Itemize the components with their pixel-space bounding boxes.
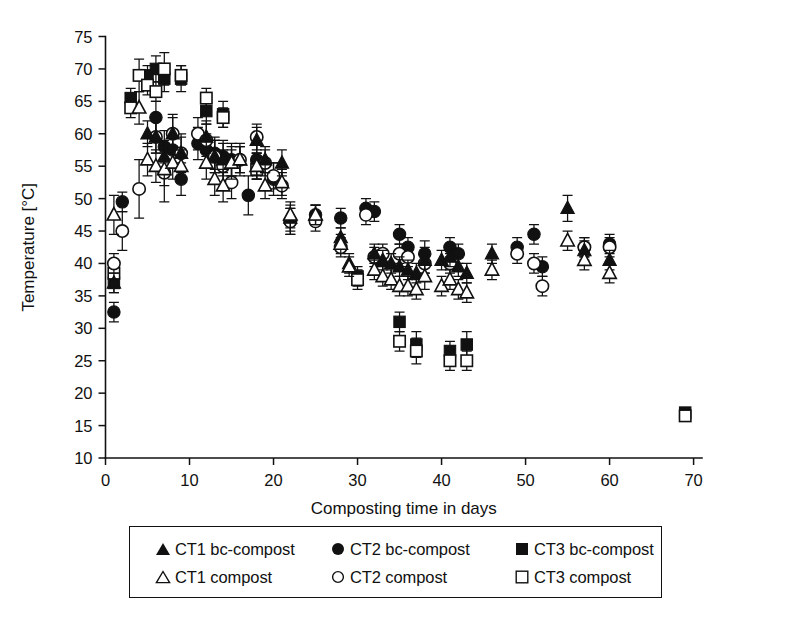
filled-square-marker — [461, 339, 472, 350]
filled-circle-marker — [335, 212, 347, 224]
open-square-marker — [175, 70, 186, 81]
y-tick-label: 15 — [74, 417, 92, 435]
filled-square-marker — [394, 316, 405, 327]
open-square-marker — [411, 345, 422, 356]
open-square-marker — [150, 86, 161, 97]
filled-circle-icon — [326, 542, 350, 556]
open-square-marker — [201, 92, 212, 103]
open-circle-marker — [133, 183, 145, 195]
open-triangle-marker — [208, 172, 221, 185]
legend-item-ct3-bc-compost[interactable]: CT3 bc-compost — [510, 540, 660, 559]
y-axis-title: Temperature [°C] — [19, 183, 38, 312]
open-triangle-marker — [485, 263, 498, 276]
open-square-marker — [217, 112, 228, 123]
open-triangle-marker — [141, 152, 154, 165]
open-square-marker — [159, 63, 170, 74]
open-square-marker — [394, 336, 405, 347]
chart-legend: CT1 bc-compost CT2 bc-compost CT3 bc-com… — [129, 526, 662, 598]
y-tick-label: 35 — [74, 287, 92, 305]
open-triangle-marker — [284, 208, 297, 221]
filled-square-icon — [510, 542, 534, 556]
y-tick-label: 10 — [74, 449, 92, 467]
open-circle-marker — [536, 280, 548, 292]
open-triangle-marker — [603, 266, 616, 279]
legend-item-ct1-compost[interactable]: CT1 compost — [130, 568, 326, 587]
y-tick-label: 60 — [74, 125, 92, 143]
legend-item-ct3-compost[interactable]: CT3 compost — [510, 568, 660, 587]
open-triangle-marker — [443, 272, 456, 285]
legend-label: CT3 compost — [534, 568, 631, 587]
x-axis-title: Composting time in days — [311, 499, 497, 518]
y-tick-label: 40 — [74, 254, 92, 272]
composting-temperature-figure: 1015202530354045505560657075010203040506… — [0, 0, 791, 638]
filled-circle-marker — [242, 189, 254, 201]
open-triangle-marker — [561, 233, 574, 246]
legend-item-ct2-bc-compost[interactable]: CT2 bc-compost — [326, 540, 510, 559]
y-tick-label: 30 — [74, 319, 92, 337]
x-tick-label: 20 — [264, 471, 282, 489]
y-tick-label: 50 — [74, 190, 92, 208]
legend-label: CT2 compost — [350, 568, 447, 587]
legend-label: CT1 bc-compost — [175, 540, 295, 559]
open-square-marker — [352, 274, 363, 285]
open-circle-marker — [511, 248, 523, 260]
y-tick-label: 25 — [74, 352, 92, 370]
y-tick-label: 65 — [74, 92, 92, 110]
x-tick-label: 10 — [180, 471, 198, 489]
legend-item-ct1-bc-compost[interactable]: CT1 bc-compost — [130, 540, 326, 559]
x-tick-label: 0 — [101, 471, 110, 489]
open-square-icon — [510, 570, 534, 584]
filled-circle-marker — [108, 306, 120, 318]
filled-triangle-icon — [151, 542, 175, 556]
filled-triangle-marker — [561, 201, 574, 214]
open-circle-marker — [108, 257, 120, 269]
open-circle-marker — [360, 209, 372, 221]
legend-row-bc-compost: CT1 bc-compost CT2 bc-compost CT3 bc-com… — [130, 535, 661, 563]
filled-triangle-marker — [275, 156, 288, 169]
y-tick-label: 20 — [74, 384, 92, 402]
legend-row-compost: CT1 compost CT2 compost CT3 compost — [130, 563, 661, 591]
x-tick-label: 60 — [600, 471, 618, 489]
x-tick-label: 50 — [516, 471, 534, 489]
data-points-layer — [107, 53, 691, 422]
open-circle-marker — [528, 257, 540, 269]
legend-label: CT1 compost — [175, 568, 272, 587]
y-tick-label: 55 — [74, 157, 92, 175]
filled-circle-marker — [393, 228, 405, 240]
legend-label: CT2 bc-compost — [350, 540, 470, 559]
y-tick-label: 70 — [74, 60, 92, 78]
open-circle-icon — [326, 570, 350, 584]
filled-circle-marker — [528, 228, 540, 240]
y-tick-label: 45 — [74, 222, 92, 240]
legend-label: CT3 bc-compost — [534, 540, 654, 559]
open-circle-marker — [116, 225, 128, 237]
open-square-marker — [444, 355, 455, 366]
filled-triangle-marker — [485, 246, 498, 259]
open-triangle-icon — [151, 570, 175, 584]
open-square-marker — [679, 410, 690, 421]
legend-item-ct2-compost[interactable]: CT2 compost — [326, 568, 510, 587]
open-square-marker — [461, 355, 472, 366]
x-tick-label: 40 — [432, 471, 450, 489]
y-tick-label: 75 — [74, 28, 92, 46]
filled-circle-marker — [116, 196, 128, 208]
open-triangle-marker — [107, 208, 120, 221]
x-tick-label: 70 — [684, 471, 702, 489]
x-tick-label: 30 — [348, 471, 366, 489]
